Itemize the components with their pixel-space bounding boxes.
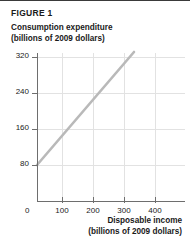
y-tick-label: 80 (20, 159, 29, 168)
y-tick-mark (32, 57, 38, 58)
y-tick-160: 160 (32, 129, 38, 130)
y-tick-mark (32, 129, 38, 130)
x-tick-mark-200 (93, 197, 94, 203)
x-tick-mark-100 (62, 197, 63, 203)
gridline-vertical (124, 53, 125, 201)
gridline-vertical (62, 53, 63, 201)
y-tick-label: 320 (16, 51, 29, 60)
y-axis-line (37, 53, 38, 202)
y-tick-label: 160 (16, 123, 29, 132)
x-tick-label-0: 0 (25, 206, 29, 215)
gridline-vertical (155, 53, 156, 201)
x-tick-label-100: 100 (55, 206, 68, 215)
gridline-horizontal (37, 165, 185, 166)
x-tick-mark-400 (155, 197, 156, 203)
x-tick-label-300: 300 (117, 206, 130, 215)
figure-container: FIGURE 1 Consumption expenditure (billio… (0, 0, 190, 251)
x-axis-caption-line1: Disposable income (88, 216, 182, 227)
y-tick-label: 240 (16, 87, 29, 96)
y-tick-mark (32, 165, 38, 166)
plot-area (37, 53, 185, 201)
x-tick-label-200: 200 (86, 206, 99, 215)
x-tick-label-400: 400 (148, 206, 161, 215)
gridline-horizontal (37, 129, 185, 130)
x-tick-mark-300 (124, 197, 125, 203)
x-axis-caption-line2: (billions of 2009 dollars) (88, 227, 182, 238)
gridline-horizontal (37, 93, 185, 94)
y-tick-320: 320 (32, 57, 38, 58)
y-axis-caption-line2: (billions of 2009 dollars) (11, 34, 112, 45)
y-tick-240: 240 (32, 93, 38, 94)
y-axis-caption-line1: Consumption expenditure (11, 23, 112, 34)
figure-label: FIGURE 1 (11, 8, 53, 18)
x-axis-line (37, 201, 185, 202)
y-tick-mark (32, 93, 38, 94)
y-axis-caption: Consumption expenditure (billions of 200… (11, 23, 112, 44)
y-tick-80: 80 (32, 165, 38, 166)
gridline-vertical (93, 53, 94, 201)
gridline-horizontal (37, 57, 185, 58)
x-axis-caption: Disposable income (billions of 2009 doll… (88, 216, 182, 237)
